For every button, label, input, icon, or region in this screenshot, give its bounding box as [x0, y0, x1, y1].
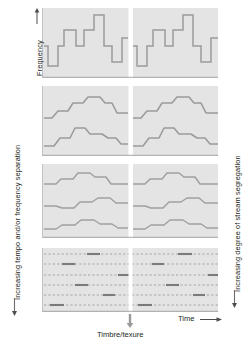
panel2-upper-rep1 — [44, 97, 128, 118]
frequency-axis-label: Frequency — [36, 40, 43, 76]
panel3-bot-rep1 — [44, 220, 128, 229]
panel3-bot-rep2 — [133, 220, 218, 229]
right-axis-arrow-icon — [230, 290, 239, 308]
panel4-repeat-gap — [129, 248, 133, 312]
panel3-top-rep1 — [44, 173, 128, 184]
panel-two-contours — [42, 86, 218, 156]
panel2-upper-rep2 — [133, 97, 218, 118]
left-axis-label: Increasing tempo and/or frequency separa… — [14, 145, 21, 300]
left-axis-arrow-icon — [10, 298, 19, 316]
panel3-top-rep2 — [133, 173, 218, 184]
panel1-svg — [42, 8, 218, 78]
figure-root: Frequency Increasing tempo and/or freque… — [0, 0, 249, 350]
right-axis-label: Increasing degree of stream segregation — [234, 155, 241, 292]
panel3-repeat-gap — [129, 164, 134, 238]
panel-three-contours-plot — [42, 164, 218, 238]
panel2-lower-rep1 — [44, 128, 128, 146]
panel3-svg — [42, 164, 218, 238]
time-axis-label: Time — [178, 315, 195, 323]
panel1-repeat-gap — [129, 8, 134, 78]
panel2-lower-rep2 — [133, 128, 218, 146]
timbre-arrow-icon — [125, 314, 135, 328]
frequency-arrow-icon — [32, 8, 42, 24]
panel2-repeat-gap — [129, 86, 134, 156]
time-axis-arrow-icon — [200, 315, 222, 324]
panel-three-contours — [42, 164, 218, 238]
panel3-mid-rep2 — [133, 198, 218, 208]
panel-two-contours-plot — [42, 86, 218, 156]
panel-square-wave-plot — [42, 8, 218, 78]
panel4-svg — [42, 248, 218, 312]
panel2-svg — [42, 86, 218, 156]
panel-dotted-streams-plot — [42, 248, 218, 312]
panel3-mid-rep1 — [44, 198, 128, 208]
timbre-texture-label: Timbre/texure — [97, 331, 144, 339]
panel-dotted-streams — [42, 248, 218, 312]
panel-square-wave — [42, 8, 218, 78]
panel1-trace-rep1 — [44, 15, 128, 66]
panel1-trace-rep2 — [133, 15, 218, 66]
